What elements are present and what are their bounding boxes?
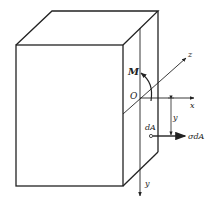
y-axis-label: y <box>144 179 150 188</box>
x-axis-label: x <box>190 101 195 110</box>
beam-diagram: M O z x y y dA σdA <box>0 0 216 201</box>
right-bottom-edge <box>123 152 158 186</box>
front-face <box>16 45 123 186</box>
z-axis-label: z <box>187 50 193 59</box>
y-distance-label: y <box>172 113 178 122</box>
top-face <box>16 11 158 45</box>
area-element-dA <box>149 134 152 137</box>
origin-label: O <box>130 91 138 101</box>
dA-label: dA <box>145 123 156 132</box>
moment-label: M <box>127 66 140 77</box>
force-label: σdA <box>188 132 205 141</box>
